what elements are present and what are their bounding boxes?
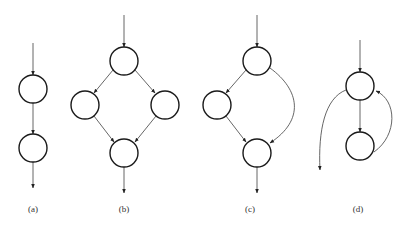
node-c2 bbox=[203, 91, 231, 119]
edge-arrow bbox=[94, 116, 114, 142]
node-a2 bbox=[19, 134, 47, 162]
node-b3 bbox=[151, 91, 179, 119]
edge-arrow bbox=[270, 68, 294, 143]
edge-arrow bbox=[320, 90, 346, 170]
node-d1 bbox=[346, 72, 374, 100]
panel-label-a: (a) bbox=[28, 204, 38, 214]
control-flow-diagram: (a)(b)(c)(d) bbox=[0, 0, 412, 233]
node-a1 bbox=[19, 75, 47, 103]
graph-panel-b: (b) bbox=[71, 15, 179, 214]
panel-label-d: (d) bbox=[353, 204, 364, 214]
node-b4 bbox=[110, 139, 138, 167]
node-b2 bbox=[71, 91, 99, 119]
graph-panel-d: (d) bbox=[320, 40, 392, 214]
edge-arrow bbox=[374, 91, 392, 152]
panel-label-b: (b) bbox=[119, 204, 130, 214]
edge-arrow bbox=[135, 70, 155, 93]
node-c3 bbox=[243, 139, 271, 167]
edge-arrow bbox=[226, 116, 246, 142]
edge-arrow bbox=[135, 116, 156, 142]
edge-arrow bbox=[94, 70, 113, 93]
node-b1 bbox=[110, 47, 138, 75]
graph-panel-c: (c) bbox=[203, 15, 294, 214]
node-d2 bbox=[346, 132, 374, 160]
node-c1 bbox=[243, 47, 271, 75]
graph-panel-a: (a) bbox=[19, 43, 47, 214]
edge-arrow bbox=[226, 70, 246, 93]
panel-label-c: (c) bbox=[245, 204, 255, 214]
